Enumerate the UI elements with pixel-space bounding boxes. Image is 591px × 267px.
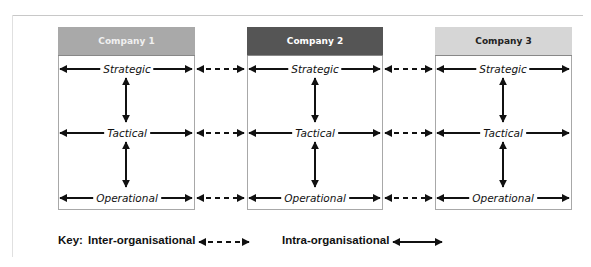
company-3-strategic-label: Strategic xyxy=(476,63,529,75)
company-2-strategic-label: Strategic xyxy=(288,63,341,75)
company-2-operational-label: Operational xyxy=(281,192,349,204)
company-3-operational-label: Operational xyxy=(469,192,537,204)
key-prefix: Key: xyxy=(58,234,83,246)
key-intra-label: Intra-organisational xyxy=(282,234,389,246)
company-1-tactical-label: Tactical xyxy=(104,127,150,139)
company-1-strategic-label: Strategic xyxy=(100,63,153,75)
company-2-tactical-label: Tactical xyxy=(292,127,338,139)
company-1-operational-label: Operational xyxy=(93,192,161,204)
key-inter-label: Inter-organisational xyxy=(88,234,195,246)
company-3-tactical-label: Tactical xyxy=(480,127,526,139)
